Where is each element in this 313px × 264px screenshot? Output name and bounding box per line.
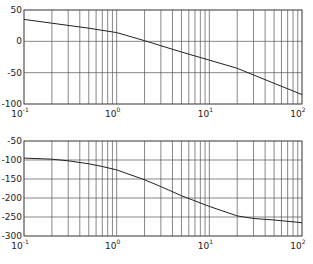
y-tick-label: -100	[2, 155, 23, 165]
plot-frame	[24, 10, 302, 104]
y-tick-label: -300	[2, 231, 23, 241]
phase-plot: -50-100-150-200-250-30010-1100101102	[2, 136, 306, 251]
x-tick-label: 101	[198, 106, 213, 119]
y-tick-label: -100	[2, 99, 23, 109]
x-tick-label: 102	[290, 238, 305, 251]
x-tick-label: 101	[198, 238, 213, 251]
bode-plot: 500-50-10010-1100101102 -50-100-150-200-…	[0, 0, 313, 264]
y-tick-label: -150	[2, 174, 23, 184]
y-tick-label: -200	[2, 193, 23, 203]
x-tick-label: 102	[290, 106, 305, 119]
y-tick-label: -50	[7, 136, 22, 146]
x-tick-label: 100	[105, 238, 120, 251]
y-tick-label: 0	[16, 36, 22, 46]
x-tick-label: 100	[105, 106, 120, 119]
y-tick-label: 50	[11, 5, 23, 15]
y-tick-label: -250	[2, 212, 23, 222]
y-tick-label: -50	[7, 68, 22, 78]
plot-frame	[24, 141, 302, 236]
magnitude-plot: 500-50-10010-1100101102	[2, 5, 306, 119]
